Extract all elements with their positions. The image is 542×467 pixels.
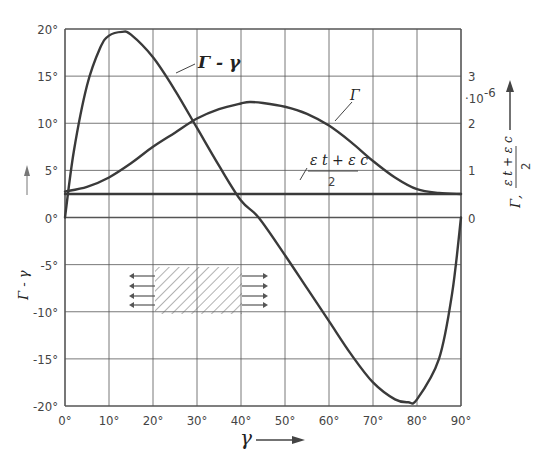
x-axis-symbol: γ xyxy=(240,426,252,450)
x-tick-label: 20° xyxy=(143,413,164,428)
x-tick-label: 10° xyxy=(99,413,120,428)
left-tick-label: 0° xyxy=(45,211,58,226)
left-tick-label: 10° xyxy=(37,116,58,131)
left-tick-label: -15° xyxy=(33,352,58,367)
right-axis-frac-den: 2 xyxy=(518,163,533,170)
chart-canvas: 0°10°20°30°40°50°60°70°80°90° 20°15°10°5… xyxy=(0,0,542,467)
grid-lines xyxy=(65,29,461,406)
right-tick-label: 2 xyxy=(468,116,475,131)
left-tick-label: -20° xyxy=(33,399,58,414)
right-tick-label: 0 xyxy=(468,211,475,226)
label-gamma-minus-gamma: Γ - γ xyxy=(176,52,241,73)
right-tick-label: 1 xyxy=(468,163,475,178)
right-tick-label: 3 xyxy=(468,69,475,84)
tension-arrows-right xyxy=(242,273,268,308)
eps-fraction-numerator: ε t + ε c xyxy=(310,152,368,168)
left-axis-arrow xyxy=(24,165,30,195)
x-tick-labels: 0°10°20°30°40°50°60°70°80°90° xyxy=(58,413,471,428)
tension-arrows-left xyxy=(129,273,155,308)
left-axis-text: Γ - γ xyxy=(16,270,31,301)
curve-1 xyxy=(65,102,461,194)
curve-label-gamma-minus-gamma: Γ - γ xyxy=(197,52,241,72)
x-tick-label: 30° xyxy=(187,413,208,428)
eps-fraction-denominator: 2 xyxy=(328,174,335,189)
left-tick-label: -10° xyxy=(33,305,58,320)
label-eps-mean: ε t + ε c 2 xyxy=(300,152,368,189)
x-axis-label: γ xyxy=(240,426,305,450)
right-axis-exp: -6 xyxy=(484,85,496,100)
curve-label-gamma: Γ xyxy=(349,87,361,103)
hatched-element-diagram xyxy=(129,267,268,314)
x-tick-label: 80° xyxy=(407,413,428,428)
left-tick-label: -5° xyxy=(40,258,58,273)
right-axis-frac-num: ε t + ε c xyxy=(501,136,515,186)
x-tick-label: 50° xyxy=(275,413,296,428)
right-axis-text: Γ, xyxy=(508,195,523,209)
right-axis-mult: ·10 xyxy=(465,91,484,106)
x-tick-label: 0° xyxy=(58,413,71,428)
left-tick-label: 5° xyxy=(45,163,58,178)
label-gamma: Γ xyxy=(335,87,361,121)
x-tick-label: 90° xyxy=(451,413,472,428)
x-tick-label: 60° xyxy=(319,413,340,428)
x-tick-label: 70° xyxy=(363,413,384,428)
left-tick-label: 20° xyxy=(37,22,58,37)
left-tick-labels: 20°15°10°5°0°-5°-10°-15°-20° xyxy=(33,22,58,414)
right-axis-label: Γ, ε t + ε c 2 xyxy=(501,136,533,209)
left-axis-label: Γ - γ xyxy=(16,270,31,301)
right-axis-arrow xyxy=(506,80,514,130)
left-tick-label: 15° xyxy=(37,69,58,84)
right-axis-multiplier: ·10 -6 xyxy=(465,85,496,106)
